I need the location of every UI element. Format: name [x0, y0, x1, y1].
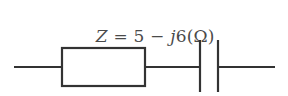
- resistor-body: [62, 48, 145, 86]
- circuit-figure: Z = 5 − j6(Ω): [0, 0, 288, 96]
- circuit-schematic: [0, 30, 288, 96]
